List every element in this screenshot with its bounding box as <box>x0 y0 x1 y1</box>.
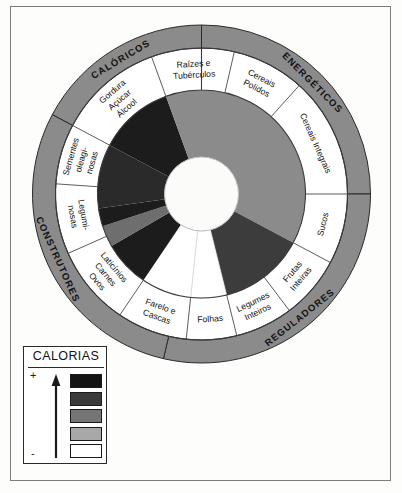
wheel-center-hole <box>165 157 239 231</box>
swatch-highest <box>70 374 102 388</box>
swatch-high <box>70 392 102 406</box>
swatch-medium <box>70 409 102 423</box>
page-canvas: GorduraAçúcarÁlcoolRaízes eTubérculosCer… <box>0 0 402 493</box>
legend-high-marker: + <box>30 369 36 381</box>
legend-title: CALORIAS <box>24 349 108 363</box>
legend-arrow-icon <box>51 373 61 458</box>
food-group-label-raizes-e-tuberculos: Raízes e <box>176 58 211 70</box>
legend-swatch-list <box>70 374 102 462</box>
swatch-low <box>70 427 102 441</box>
legend-low-marker: - <box>31 447 35 459</box>
swatch-lowest <box>70 444 102 458</box>
calorias-legend: CALORIAS + - <box>23 346 107 464</box>
legend-divider <box>28 367 104 368</box>
food-group-label-folhas: Folhas <box>197 313 223 325</box>
